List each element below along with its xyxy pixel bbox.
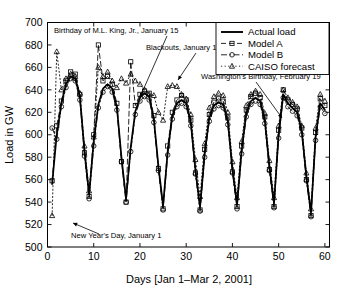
y-axis-tick-label: 560: [25, 173, 43, 185]
y-axis-tick-label: 520: [25, 218, 43, 230]
x-axis-tick-label: 50: [273, 250, 285, 262]
chart-legend: Actual loadModel AModel BCAISO forecast: [216, 23, 329, 75]
x-axis-tick-label: 10: [88, 250, 100, 262]
y-axis-tick-label: 580: [25, 151, 43, 163]
x-axis-tick-label: 30: [180, 250, 192, 262]
x-axis-tick-label: 20: [134, 250, 146, 262]
x-axis-tick-label: 0: [45, 250, 51, 262]
y-axis-tick-label: 660: [25, 61, 43, 73]
y-axis-tick-label: 700: [25, 16, 43, 28]
y-axis-tick-label: 640: [25, 84, 43, 96]
chart-annotation: Birthday of M.L. King, Jr., January 15: [54, 26, 179, 35]
y-axis-tick-label: 680: [25, 39, 43, 51]
legend-label: Model B: [248, 49, 283, 60]
y-axis-tick-label: 620: [25, 106, 43, 118]
chart-annotation: New Year's Day, January 1: [71, 231, 161, 240]
chart-canvas: 500520540560580600620640660680700 010203…: [0, 0, 348, 292]
legend-label: CAISO forecast: [248, 61, 315, 72]
y-axis-tick-label: 500: [25, 241, 43, 253]
y-axis-tick-label: 600: [25, 128, 43, 140]
x-axis-tick-label: 60: [319, 250, 331, 262]
legend-label: Model A: [248, 38, 283, 49]
x-axis-tick-label: 40: [227, 250, 239, 262]
load-forecast-chart: 500520540560580600620640660680700 010203…: [0, 0, 348, 292]
y-axis-label: Load in GW: [3, 105, 15, 164]
y-axis-tick-label: 540: [25, 196, 43, 208]
legend-label: Actual load: [248, 26, 295, 37]
x-axis-label: Days [Jan 1–Mar 2, 2001]: [126, 273, 252, 285]
